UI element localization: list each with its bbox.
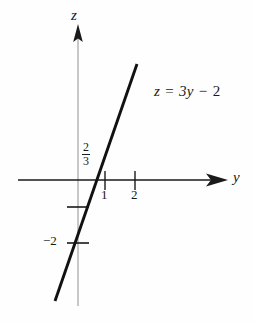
tick-label-y-2: 2 <box>131 188 138 201</box>
y-axis-label: y <box>233 170 240 185</box>
equation-constant: 2 <box>213 83 221 99</box>
tick-label-z-neg2: −2 <box>43 234 57 247</box>
line-z-equals-3y-minus-2 <box>55 64 137 301</box>
equation-lhs: z <box>154 83 160 99</box>
plot-canvas <box>0 0 255 323</box>
equation-annotation: z = 3y − 2 <box>154 84 221 99</box>
y-intercept-fraction-label: 2 3 <box>82 141 90 167</box>
graph-figure: z y 1 2 −2 2 3 z = 3y − 2 <box>0 0 255 323</box>
z-axis-label: z <box>71 8 77 23</box>
fraction-denominator: 3 <box>82 155 90 168</box>
tick-label-y-1: 1 <box>101 188 108 201</box>
equation-equals: = <box>164 83 175 99</box>
fraction-numerator: 2 <box>82 141 90 155</box>
equation-minus: − <box>198 83 209 99</box>
equation-slope-term: 3y <box>179 83 194 99</box>
